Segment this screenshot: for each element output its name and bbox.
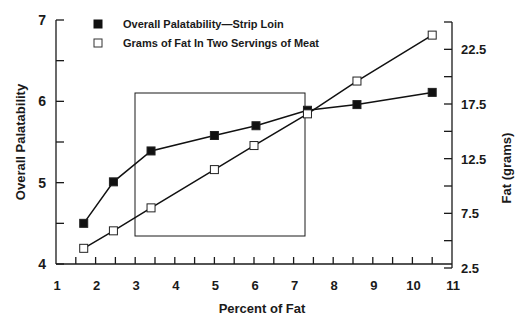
fat-grams-point: [147, 204, 155, 212]
y-tick-label: 5: [38, 175, 46, 191]
chart: 4567 1234567891011 2.57.512.517.522.5 Ov…: [0, 0, 528, 330]
y2-tick-label: 7.5: [461, 206, 479, 221]
x-tick-label: 6: [251, 278, 258, 293]
palatability-point: [252, 122, 260, 130]
y-axis-title: Overall Palatability: [13, 83, 28, 200]
x-axis-title: Percent of Fat: [219, 301, 306, 316]
left-axis-tick-labels: 4567: [38, 12, 46, 272]
legend: Overall Palatability—Strip Loin Grams of…: [94, 18, 319, 49]
fat-grams-point: [80, 244, 88, 252]
fat-grams-point: [428, 31, 436, 39]
palatability-point: [109, 178, 117, 186]
x-tick-label: 8: [331, 278, 338, 293]
plot-area: [80, 31, 436, 252]
palatability-point: [80, 219, 88, 227]
right-axis-tick-labels: 2.57.512.517.522.5: [461, 42, 486, 276]
right-axis-ticks: [444, 22, 452, 268]
palatability-line: [84, 92, 432, 223]
legend-marker-fat-grams: [94, 39, 102, 47]
x-axis-ticks: [76, 257, 432, 264]
palatability-point: [428, 88, 436, 96]
x-tick-label: 9: [370, 278, 377, 293]
x-tick-label: 10: [406, 278, 420, 293]
fat-grams-point: [353, 77, 361, 85]
palatability-point: [210, 131, 218, 139]
x-tick-label: 3: [133, 278, 140, 293]
x-axis-tick-labels: 1234567891011: [53, 278, 459, 293]
y2-axis-title: Fat (grams): [499, 133, 514, 204]
y-tick-label: 6: [38, 93, 46, 109]
x-tick-label: 1: [53, 278, 60, 293]
y2-tick-label: 17.5: [461, 97, 486, 112]
y2-tick-label: 22.5: [461, 42, 486, 57]
fat-grams-point: [250, 142, 258, 150]
palatability-point: [147, 147, 155, 155]
y-tick-label: 7: [38, 12, 46, 28]
x-tick-label: 4: [172, 278, 180, 293]
legend-marker-palatability: [94, 20, 102, 28]
x-tick-label: 7: [291, 278, 298, 293]
x-tick-label: 2: [93, 278, 100, 293]
palatability-point: [353, 101, 361, 109]
legend-label-fat-grams: Grams of Fat In Two Servings of Meat: [123, 37, 319, 49]
legend-label-palatability: Overall Palatability—Strip Loin: [123, 18, 284, 30]
highlight-box: [135, 93, 305, 236]
fat-grams-point: [210, 166, 218, 174]
y2-tick-label: 2.5: [461, 261, 479, 276]
x-tick-label: 11: [446, 278, 460, 293]
fat-grams-point: [109, 227, 117, 235]
fat-grams-point: [303, 110, 311, 118]
y-tick-label: 4: [38, 256, 46, 272]
y2-tick-label: 12.5: [461, 152, 486, 167]
left-axis-ticks: [56, 20, 64, 264]
x-tick-label: 5: [212, 278, 219, 293]
